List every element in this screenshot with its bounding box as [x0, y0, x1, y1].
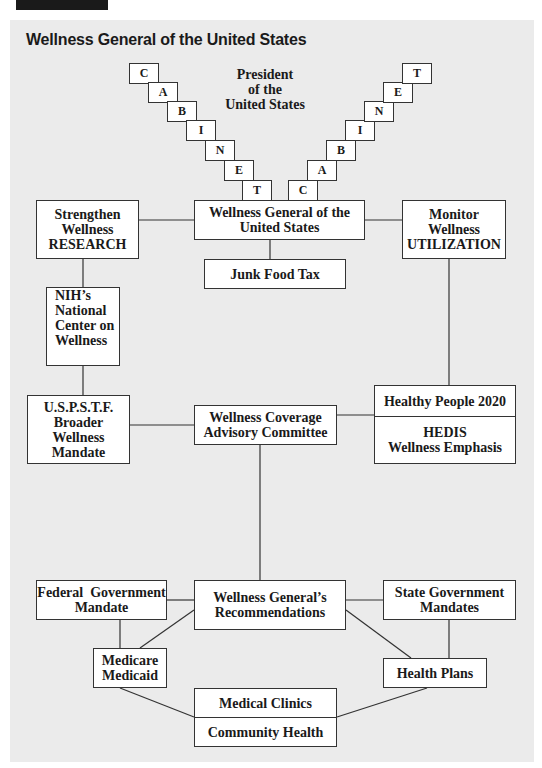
coverage-committee-node: Wellness Coverage Advisory Committee: [194, 405, 337, 445]
cabinet-right-step: N: [364, 101, 394, 122]
strengthen-research-node: Strengthen Wellness RESEARCH: [36, 200, 139, 259]
cabinet-left-step: I: [186, 120, 216, 141]
wellness-general-node: Wellness General of the United States: [194, 200, 365, 240]
health-plans-node: Health Plans: [383, 658, 487, 688]
healthy-people-section: Healthy People 2020: [375, 386, 515, 416]
community-health-section: Community Health: [195, 717, 336, 746]
cabinet-left-step: E: [224, 160, 254, 181]
cabinet-right-step: C: [288, 180, 318, 201]
nih-center-node: NIH’s National Center on Wellness: [46, 287, 120, 366]
cabinet-left-step: B: [167, 101, 197, 122]
uspstf-mandate-node: U.S.P.S.T.F. Broader Wellness Mandate: [27, 395, 130, 464]
medical-clinics-section: Medical Clinics: [195, 689, 336, 717]
cabinet-right-step: B: [326, 140, 356, 161]
state-mandates-node: State Government Mandates: [383, 580, 516, 620]
cabinet-left-step: C: [129, 63, 159, 84]
federal-mandate-node: Federal Government Mandate: [36, 580, 167, 620]
cabinet-left-step: T: [242, 180, 272, 201]
cabinet-right-step: A: [307, 160, 337, 181]
clinics-community-node: Medical Clinics Community Health: [194, 688, 337, 747]
healthy-people-hedis-node: Healthy People 2020 HEDIS Wellness Empha…: [374, 385, 516, 464]
cabinet-right-step: E: [383, 82, 413, 103]
connector-lines: [0, 0, 542, 768]
junk-food-tax-node: Junk Food Tax: [204, 259, 346, 289]
president-label: President of the United States: [205, 67, 325, 112]
cabinet-left-step: N: [205, 140, 235, 161]
cabinet-right-step: I: [345, 120, 375, 141]
monitor-utilization-node: Monitor Wellness UTILIZATION: [402, 200, 506, 259]
cabinet-right-step: T: [402, 63, 432, 84]
recommendations-node: Wellness General’s Recommendations: [194, 580, 346, 630]
hedis-section: HEDIS Wellness Emphasis: [375, 416, 515, 463]
cabinet-left-step: A: [148, 82, 178, 103]
medicare-medicaid-node: Medicare Medicaid: [93, 648, 167, 688]
